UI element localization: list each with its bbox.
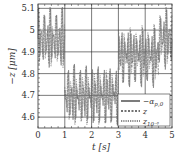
chart-svg: 0123454.64.74.84.955.1−αp,0zz10⁻⁶ [0, 0, 177, 161]
y-axis-label: −z [μm] [8, 48, 17, 85]
legend-label: z [142, 107, 147, 116]
y-tick-label: 5 [30, 25, 35, 35]
x-tick-label: 4 [142, 130, 147, 140]
x-tick-label: 3 [116, 130, 121, 140]
y-tick-label: 4.9 [21, 47, 35, 57]
y-tick-label: 4.6 [21, 112, 35, 122]
y-tick-label: 4.7 [21, 90, 35, 100]
y-tick-label: 4.8 [21, 69, 35, 79]
trace-dotted [159, 7, 172, 63]
x-tick-label: 5 [169, 130, 174, 140]
x-tick-label: 1 [62, 130, 67, 140]
x-tick-label: 0 [35, 130, 40, 140]
y-tick-label: 5.1 [21, 3, 35, 13]
x-axis-label: t [s] [92, 143, 110, 152]
x-tick-label: 2 [89, 130, 94, 140]
